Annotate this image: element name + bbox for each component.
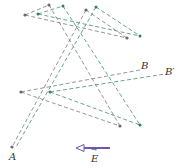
displaced-configuration — [16, 6, 165, 147]
label-a: A — [9, 152, 16, 162]
diagram-canvas: A B B′ → E — [0, 0, 183, 168]
diagram-lines — [0, 0, 183, 168]
label-b: B — [141, 61, 148, 71]
label-e-field: E — [91, 154, 98, 164]
label-b-prime: B′ — [165, 67, 175, 77]
displaced-points — [37, 5, 142, 127]
